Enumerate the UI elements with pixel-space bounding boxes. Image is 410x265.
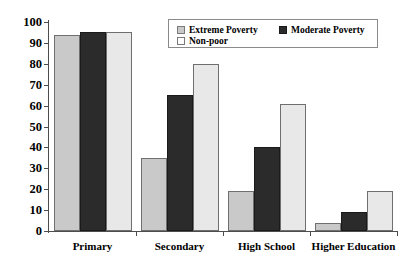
bar-group <box>54 22 132 231</box>
y-tick-mark <box>44 231 49 232</box>
legend-item-moderate-poverty: Moderate Poverty <box>279 25 365 35</box>
y-tick-label: 10 <box>6 204 42 217</box>
y-tick-label: 40 <box>6 141 42 154</box>
bar <box>167 95 193 231</box>
bar <box>80 32 106 231</box>
y-tick-label: 90 <box>6 37 42 50</box>
bar <box>106 32 132 231</box>
y-tick-label: 20 <box>6 183 42 196</box>
x-tick-mark <box>223 231 224 236</box>
bar-group <box>228 22 306 231</box>
bar-group <box>141 22 219 231</box>
y-tick-label: 0 <box>6 225 42 238</box>
x-category-label: High School <box>223 240 310 252</box>
bar-chart: 0102030405060708090100 PrimarySecondaryH… <box>0 0 410 265</box>
bar <box>228 191 254 231</box>
bar <box>141 158 167 231</box>
bar <box>280 104 306 231</box>
legend-label: Moderate Poverty <box>291 25 365 35</box>
legend-label: Non-poor <box>189 36 228 46</box>
legend-item-non-poor: Non-poor <box>177 36 228 46</box>
x-category-label: Secondary <box>136 240 223 252</box>
legend: Extreme Poverty Moderate Poverty Non-poo… <box>168 19 378 48</box>
y-tick-label: 100 <box>6 16 42 29</box>
y-tick-label: 60 <box>6 100 42 113</box>
bar-group <box>315 22 393 231</box>
y-tick-label: 50 <box>6 121 42 134</box>
bar <box>367 191 393 231</box>
bar <box>341 212 367 231</box>
bar <box>254 147 280 231</box>
x-tick-mark <box>136 231 137 236</box>
x-category-label: Higher Education <box>310 240 397 252</box>
y-tick-label: 70 <box>6 79 42 92</box>
bar <box>54 35 80 231</box>
y-tick-label: 80 <box>6 58 42 71</box>
plot-area <box>49 22 397 231</box>
y-tick-label: 30 <box>6 162 42 175</box>
legend-item-extreme-poverty: Extreme Poverty <box>177 25 258 35</box>
legend-swatch-icon <box>177 26 185 34</box>
bar <box>315 223 341 231</box>
legend-label: Extreme Poverty <box>189 25 258 35</box>
x-category-label: Primary <box>49 240 136 252</box>
legend-swatch-icon <box>279 26 287 34</box>
x-tick-mark <box>310 231 311 236</box>
x-tick-mark <box>397 231 398 236</box>
legend-swatch-icon <box>177 37 185 45</box>
bar <box>193 64 219 231</box>
